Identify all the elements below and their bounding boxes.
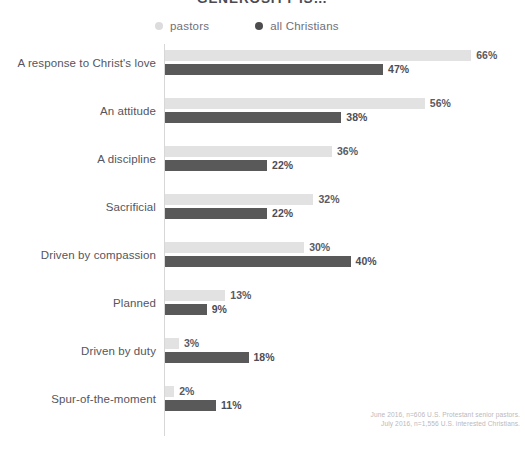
category-label: Spur-of-the-moment [0,393,156,405]
bar-pastors[interactable] [165,242,304,253]
bar-value-label: 3% [184,337,199,349]
source-note-line-2: July 2016, n=1,556 U.S. interested Chris… [371,420,520,428]
category-label: Planned [0,297,156,309]
bar-group: A discipline36%22% [0,140,525,188]
bar-group: Planned13%9% [0,284,525,332]
bar-value-label: 66% [476,49,497,61]
legend-item-label: pastors [170,20,209,32]
bar-group: Driven by compassion30%40% [0,236,525,284]
bar-group: A response to Christ's love66%47% [0,44,525,92]
bar-pastors[interactable] [165,194,313,205]
bar-all-christians[interactable] [165,256,351,267]
bar-all-christians[interactable] [165,400,216,411]
bar-value-label: 30% [309,241,330,253]
bar-all-christians[interactable] [165,112,341,123]
page-title: GENEROSITY IS… [0,0,525,6]
category-label: Sacrificial [0,201,156,213]
legend-item-label: all Christians [270,20,339,32]
plot-area: A response to Christ's love66%47%An atti… [0,44,525,436]
legend-item-all-christians[interactable]: all Christians [255,20,339,32]
bar-all-christians[interactable] [165,352,249,363]
bar-value-label: 2% [179,385,194,397]
category-label: Driven by compassion [0,249,156,261]
bar-group: An attitude56%38% [0,92,525,140]
chart-container: GENEROSITY IS… pastors all Christians A … [0,0,525,456]
bar-value-label: 47% [388,63,409,75]
bar-value-label: 22% [272,207,293,219]
bar-all-christians[interactable] [165,208,267,219]
bar-group: Driven by duty3%18% [0,332,525,380]
source-note: June 2016, n=606 U.S. Protestant senior … [371,411,520,428]
category-label: An attitude [0,105,156,117]
bar-all-christians[interactable] [165,304,207,315]
legend-item-pastors[interactable]: pastors [155,20,209,32]
bar-all-christians[interactable] [165,160,267,171]
legend-swatch-circle-icon [255,22,263,30]
bar-pastors[interactable] [165,338,179,349]
bar-value-label: 22% [272,159,293,171]
bar-pastors[interactable] [165,290,225,301]
bar-pastors[interactable] [165,50,471,61]
bar-pastors[interactable] [165,386,174,397]
bar-value-label: 13% [230,289,251,301]
bar-all-christians[interactable] [165,64,383,75]
bar-value-label: 38% [346,111,367,123]
bar-value-label: 9% [212,303,227,315]
category-label: Driven by duty [0,345,156,357]
bar-value-label: 36% [337,145,358,157]
category-label: A discipline [0,153,156,165]
bar-pastors[interactable] [165,146,332,157]
bar-value-label: 40% [356,255,377,267]
bar-value-label: 18% [254,351,275,363]
bar-value-label: 11% [221,399,241,411]
legend-swatch-circle-icon [155,22,163,30]
bar-group: Sacrificial32%22% [0,188,525,236]
category-label: A response to Christ's love [0,57,156,69]
bar-value-label: 32% [318,193,339,205]
bar-value-label: 56% [430,97,451,109]
source-note-line-1: June 2016, n=606 U.S. Protestant senior … [371,411,520,419]
bar-pastors[interactable] [165,98,425,109]
bar-rows: A response to Christ's love66%47%An atti… [0,44,525,428]
chart-legend: pastors all Christians [155,20,339,32]
